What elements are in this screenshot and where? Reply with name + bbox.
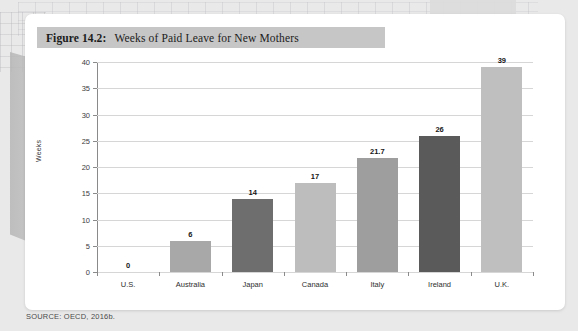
- y-tick-label: 25: [82, 136, 90, 145]
- y-tick-mark: [93, 141, 97, 142]
- x-category-label: U.K.: [495, 280, 510, 289]
- y-axis-title: Weeks: [35, 140, 42, 162]
- y-tick-label: 0: [86, 268, 90, 277]
- gridline: [97, 141, 533, 142]
- bar-value-label: 26: [435, 125, 443, 134]
- x-category-label: Japan: [242, 280, 262, 289]
- source-note: SOURCE: OECD, 2016b.: [26, 312, 115, 321]
- y-tick-label: 40: [82, 58, 90, 67]
- figure-title: Weeks of Paid Leave for New Mothers: [114, 32, 298, 44]
- y-tick-label: 10: [82, 215, 90, 224]
- y-tick-mark: [93, 62, 97, 63]
- figure-number: Figure 14.2:: [46, 32, 106, 44]
- bar: [357, 158, 398, 272]
- y-tick-mark: [93, 220, 97, 221]
- bar-value-label: 21.7: [370, 147, 385, 156]
- bar-value-label: 39: [498, 56, 506, 65]
- bar-chart: Weeks 0510152025303540 06141721.72639 U.…: [37, 54, 553, 294]
- x-category-label: Canada: [302, 280, 328, 289]
- x-tick-mark: [533, 272, 534, 276]
- y-tick-label: 30: [82, 110, 90, 119]
- y-tick-label: 15: [82, 189, 90, 198]
- gridline: [97, 115, 533, 116]
- bar-value-label: 6: [188, 230, 192, 239]
- y-tick-mark: [93, 88, 97, 89]
- bar-value-label: 14: [249, 188, 257, 197]
- x-tick-mark: [346, 272, 347, 276]
- bar: [481, 67, 522, 272]
- y-tick-label: 5: [86, 241, 90, 250]
- x-tick-mark: [284, 272, 285, 276]
- y-tick-mark: [93, 167, 97, 168]
- figure-card: Figure 14.2: Weeks of Paid Leave for New…: [25, 14, 565, 310]
- bar-value-label: 0: [126, 261, 130, 270]
- plot-area: 0510152025303540 06141721.72639 U.S.Aust…: [97, 62, 533, 272]
- bar-value-label: 17: [311, 172, 319, 181]
- figure-title-band: Figure 14.2: Weeks of Paid Leave for New…: [37, 27, 385, 48]
- bar: [232, 199, 273, 273]
- gridline: [97, 167, 533, 168]
- bar: [419, 136, 460, 273]
- gridline: [97, 88, 533, 89]
- x-tick-mark: [408, 272, 409, 276]
- x-tick-mark: [222, 272, 223, 276]
- bar: [170, 241, 211, 273]
- gridline: [97, 62, 533, 63]
- x-category-label: Ireland: [428, 280, 451, 289]
- x-category-label: Australia: [176, 280, 205, 289]
- x-category-label: Italy: [370, 280, 384, 289]
- y-tick-mark: [93, 246, 97, 247]
- x-tick-mark: [159, 272, 160, 276]
- y-tick-mark: [93, 115, 97, 116]
- bar: [295, 183, 336, 272]
- x-tick-mark: [97, 272, 98, 276]
- x-category-label: U.S.: [121, 280, 136, 289]
- gridline: [97, 272, 533, 273]
- y-tick-label: 20: [82, 163, 90, 172]
- y-tick-mark: [93, 193, 97, 194]
- x-tick-mark: [471, 272, 472, 276]
- y-tick-label: 35: [82, 84, 90, 93]
